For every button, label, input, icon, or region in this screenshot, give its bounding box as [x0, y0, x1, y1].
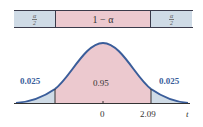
right-tail-area	[151, 89, 188, 103]
right-area-label: 0.025	[159, 76, 179, 86]
t-distribution-curve	[0, 0, 203, 127]
left-area-label: 0.025	[20, 76, 40, 86]
axis-label-t: t	[186, 109, 189, 119]
left-tail-area	[16, 89, 55, 103]
center-area-label: 0.95	[93, 78, 109, 88]
tick-label-critical: 2.09	[140, 109, 156, 119]
tick-label-zero: 0	[100, 109, 105, 119]
